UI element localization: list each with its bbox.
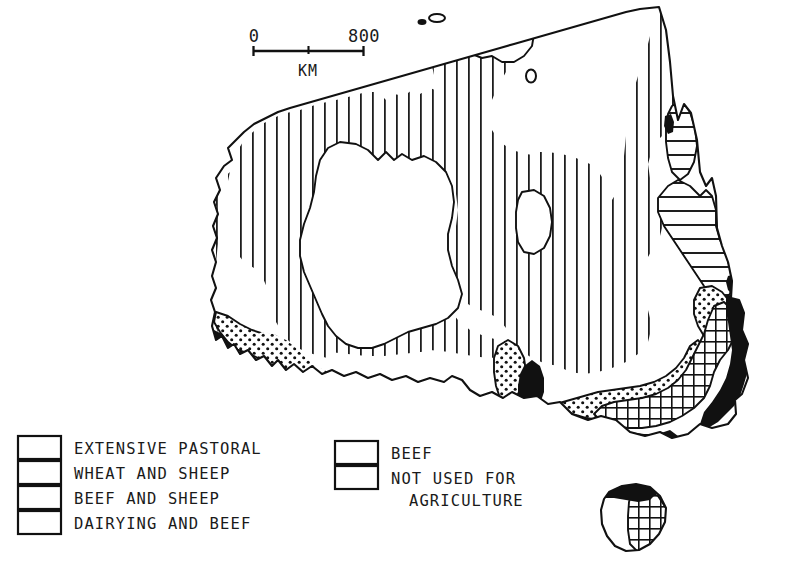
island-groote-eylandt xyxy=(526,70,536,83)
legend-swatch-extensive-pastoral xyxy=(18,436,61,459)
legend-swatch-dairying-and-beef xyxy=(18,511,61,534)
legend-label-beef: BEEF xyxy=(391,445,433,463)
legend-swatch-wheat-and-sheep xyxy=(18,461,61,484)
legend-label-beef-and-sheep: BEEF AND SHEEP xyxy=(74,490,220,508)
legend-item-wheat-and-sheep[interactable]: WHEAT AND SHEEP xyxy=(18,461,230,484)
scale-min-label: 0 xyxy=(249,26,260,46)
legend-item-beef-and-sheep[interactable]: BEEF AND SHEEP xyxy=(18,486,220,509)
legend-label-not-used-for-agriculture: NOT USED FOR xyxy=(391,470,516,488)
legend-item-dairying-and-beef[interactable]: DAIRYING AND BEEF xyxy=(18,511,251,534)
australia-landuse-map: 0 800 KM xyxy=(0,0,789,564)
map-figure: 0 800 KM xyxy=(0,0,789,564)
legend-swatch-beef xyxy=(335,441,378,464)
legend-label-dairying-and-beef: DAIRYING AND BEEF xyxy=(74,515,251,533)
legend-label-extensive-pastoral: EXTENSIVE PASTORAL xyxy=(74,440,262,458)
scale-unit-label: KM xyxy=(298,62,318,80)
legend-swatch-not-used-for-agriculture xyxy=(335,466,378,489)
legend-label-not-used-for-agriculture-line2: AGRICULTURE xyxy=(409,492,524,510)
legend-item-extensive-pastoral[interactable]: EXTENSIVE PASTORAL xyxy=(18,436,262,459)
island-melville xyxy=(429,14,445,22)
legend-label-wheat-and-sheep: WHEAT AND SHEEP xyxy=(74,465,230,483)
island-bathurst xyxy=(418,19,427,25)
scale-max-label: 800 xyxy=(348,26,380,46)
legend-swatch-beef-and-sheep xyxy=(18,486,61,509)
